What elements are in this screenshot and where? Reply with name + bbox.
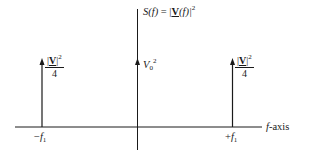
title-equals: = | xyxy=(158,6,171,17)
impulse-right-position-label: +f1 xyxy=(225,132,237,143)
title-lhs-arg: (f) xyxy=(148,6,158,17)
title-rhs-arg: (f)| xyxy=(179,6,192,17)
impulse-left-arrowhead xyxy=(40,58,45,65)
impulse-left-magnitude: |V|2 4 xyxy=(45,56,64,79)
impulse-left-magnitude-denominator: 4 xyxy=(52,68,57,79)
f-axis-label: f-axis xyxy=(266,122,289,133)
impulse-center-arrowhead xyxy=(135,58,140,65)
title-rhs-exp: 2 xyxy=(192,4,196,12)
impulse-center-magnitude: V02 xyxy=(143,60,156,71)
impulse-right-magnitude: |V|2 4 xyxy=(235,56,254,79)
impulse-right-magnitude-denominator: 4 xyxy=(242,68,247,79)
impulse-right-magnitude-numerator: |V|2 xyxy=(235,56,254,68)
impulse-left-magnitude-numerator: |V|2 xyxy=(45,56,64,68)
title-rhs-var: V xyxy=(171,6,179,17)
impulse-left-position-label: −f1 xyxy=(34,132,46,143)
spectrum-title: S(f) = |V(f)|2 xyxy=(143,7,195,18)
